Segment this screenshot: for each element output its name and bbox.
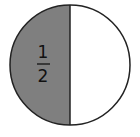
fraction-numerator: 1 <box>38 42 49 62</box>
fraction-denominator: 2 <box>38 66 49 86</box>
fraction-circle-diagram: 1 2 <box>0 0 140 137</box>
unshaded-half <box>70 5 130 125</box>
shaded-half <box>10 5 70 125</box>
